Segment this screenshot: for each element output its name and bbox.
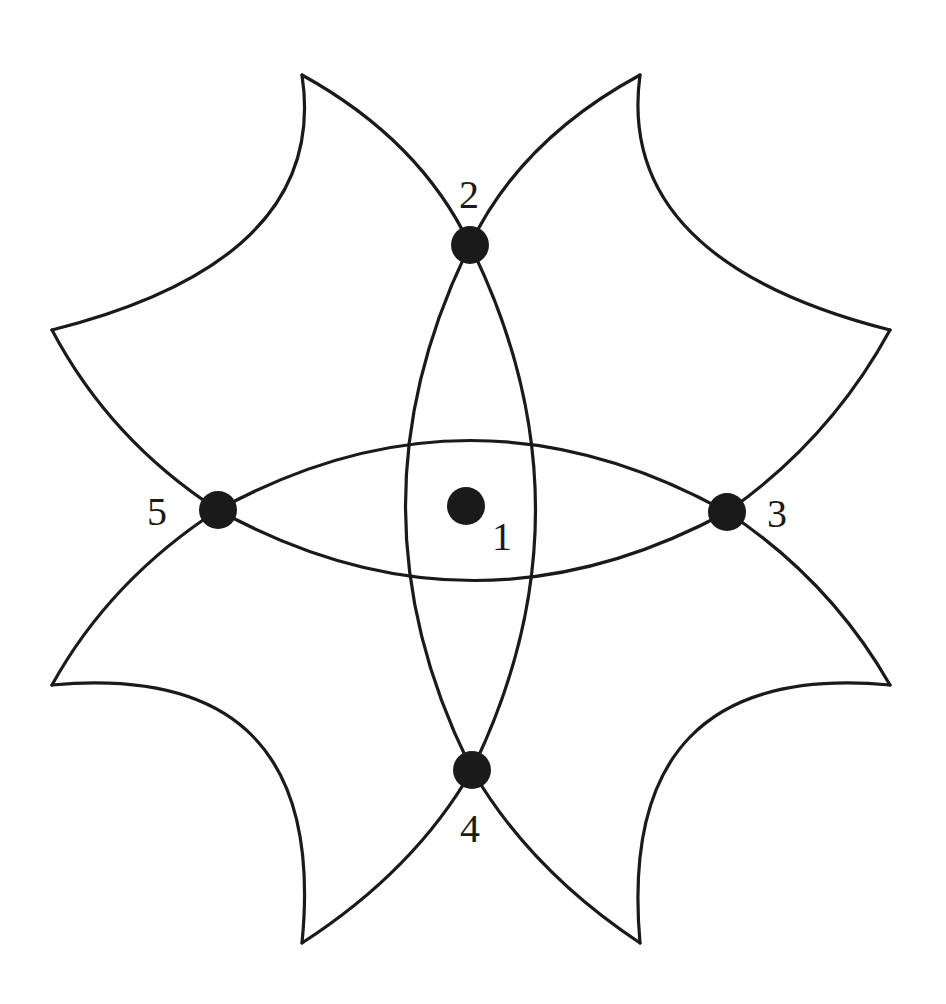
arc-top-right-concave	[638, 75, 890, 330]
arc-tip-to-node2-right	[470, 75, 640, 245]
node-5-label: 5	[147, 489, 167, 534]
node-1-label: 1	[492, 514, 512, 559]
arc-bottom-right-concave	[638, 683, 890, 943]
node-3-dot	[708, 493, 746, 531]
node-5-dot	[199, 491, 237, 529]
arc-tip-to-node5-bottom	[52, 510, 218, 685]
node-3-label: 3	[767, 491, 787, 536]
arc-tip-to-node4-left	[302, 770, 472, 943]
node-4-dot	[453, 751, 491, 789]
node-4-label: 4	[460, 806, 480, 851]
arc-tip-to-node2-left	[302, 75, 470, 245]
arc-bottom-left-concave	[52, 683, 305, 943]
star-lens-diagram: 1 2 3 4 5	[0, 0, 946, 1004]
node-2-dot	[451, 226, 489, 264]
node-1-dot	[447, 487, 485, 525]
arc-tip-to-node4-right	[472, 770, 640, 943]
node-2-label: 2	[459, 172, 479, 217]
arc-tip-to-node3-top	[727, 330, 890, 512]
arc-tip-to-node3-bottom	[727, 512, 890, 685]
arc-tip-to-node5-top	[52, 330, 218, 510]
nodes	[199, 226, 746, 789]
arc-top-left-concave	[52, 75, 305, 330]
